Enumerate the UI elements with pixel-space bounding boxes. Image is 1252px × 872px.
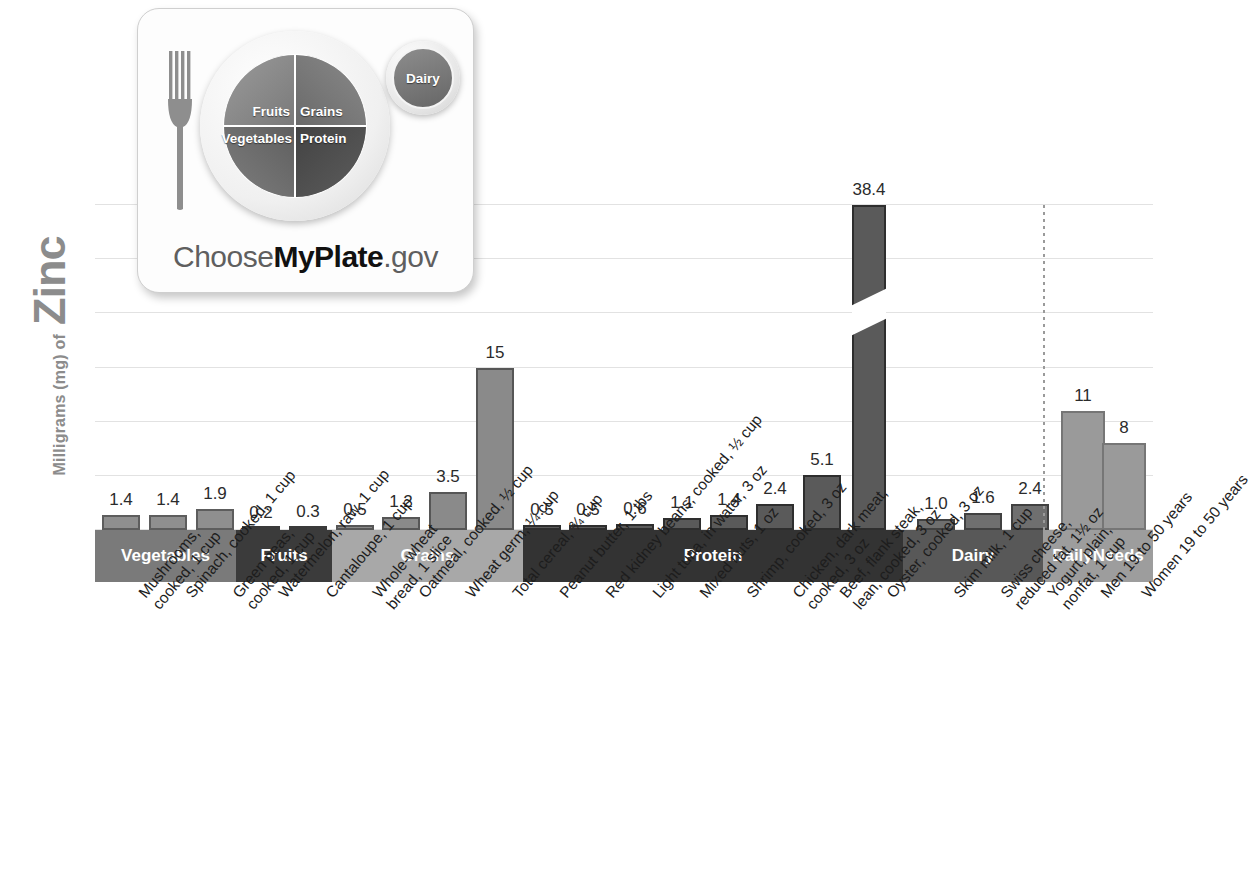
- y-axis-title: Milligrams (mg) of Zinc: [24, 146, 76, 566]
- bar-value-label: 38.4: [852, 180, 885, 200]
- bar-group: 1.6: [964, 205, 1002, 530]
- bar-value-label: 1.4: [109, 490, 133, 510]
- bar-value-label: 3.5: [436, 467, 460, 487]
- bar-group: 0.5: [569, 205, 607, 530]
- y-axis-title-nutrient: Zinc: [24, 237, 76, 326]
- plate-graphic: Fruits Grains Vegetables Protein: [200, 31, 390, 221]
- bar-value-label: 2.4: [1018, 479, 1042, 499]
- y-axis-title-units: Milligrams (mg) of: [51, 334, 69, 475]
- axis-break-marker: [852, 288, 886, 335]
- wordmark-myplate: MyPlate: [273, 240, 383, 273]
- bar-value-label: 5.1: [810, 450, 834, 470]
- bar[interactable]: [149, 515, 187, 530]
- wordmark-gov: .gov: [383, 240, 438, 273]
- plate-section-dairy-cup: Dairy: [386, 41, 460, 115]
- bar-value-label: 15: [486, 343, 505, 363]
- myplate-wordmark: ChooseMyPlate.gov: [138, 240, 473, 274]
- bar-value-label: 0.3: [296, 502, 320, 522]
- bar-group: 38.4: [852, 205, 886, 530]
- bar-group: 11: [1061, 205, 1105, 530]
- bar-group: 1.4: [102, 205, 140, 530]
- daily-needs-divider: [1043, 205, 1045, 530]
- bar-group: 0.6: [616, 205, 654, 530]
- fork-icon: [168, 51, 194, 211]
- bar-value-label: 1.4: [156, 490, 180, 510]
- wordmark-choose: Choose: [173, 240, 273, 273]
- bar-value-label: 11: [1074, 386, 1092, 406]
- bar[interactable]: [964, 513, 1002, 530]
- bar[interactable]: [102, 515, 140, 530]
- bar-group: 1.0: [917, 205, 955, 530]
- bar-value-label: 8: [1119, 418, 1128, 438]
- x-axis-labels: Mushrooms,cooked, 1 cupSpinach, cooked, …: [0, 588, 1169, 848]
- plate-section-dairy-label: Dairy: [392, 47, 454, 109]
- bar[interactable]: [1102, 443, 1146, 530]
- myplate-logo: Fruits Grains Vegetables Protein Dairy C…: [137, 8, 474, 293]
- bar-value-label: 1.9: [203, 484, 227, 504]
- bar[interactable]: [852, 205, 886, 530]
- bar-value-label: 2.4: [763, 479, 787, 499]
- bar-group: 8: [1102, 205, 1146, 530]
